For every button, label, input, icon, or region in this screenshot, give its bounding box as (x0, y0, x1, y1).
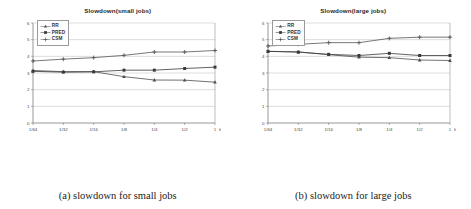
svg-text:6: 6 (27, 21, 30, 26)
svg-text:1/64: 1/64 (28, 127, 37, 132)
plot-area-large-jobs: 01234561/641/321/161/81/41/21freq(mes/s)… (250, 17, 456, 145)
legend-marker-plus-icon (40, 37, 51, 42)
caption-small-jobs: (a) slowdown for small jobs (0, 190, 236, 201)
legend-label-pred: PRED (287, 31, 301, 36)
svg-text:4: 4 (262, 54, 265, 59)
svg-text:6: 6 (262, 21, 265, 26)
svg-text:1: 1 (27, 104, 30, 109)
legend-label-pred: PRED (52, 31, 66, 36)
legend-marker-triangle-icon (275, 24, 286, 29)
chart-title-large-jobs: Slowdown(large jobs) (320, 7, 386, 14)
panel-small-jobs: Slowdown(small jobs) 01234561/641/321/16… (0, 0, 236, 209)
svg-text:1/16: 1/16 (325, 127, 334, 132)
svg-text:3: 3 (27, 71, 30, 76)
legend-marker-square-icon (40, 30, 51, 35)
legend-item-rr: RR (275, 23, 301, 29)
svg-text:1: 1 (214, 127, 217, 132)
legend-item-csm: CSM (275, 37, 301, 43)
svg-text:1/4: 1/4 (151, 127, 158, 132)
svg-text:2: 2 (27, 87, 30, 92)
svg-text:2: 2 (262, 87, 265, 92)
legend-large-jobs: RR PRED CSM (272, 20, 305, 46)
svg-text:1/2: 1/2 (417, 127, 424, 132)
svg-text:5: 5 (262, 37, 265, 42)
legend-label-csm: CSM (52, 37, 63, 42)
svg-text:5: 5 (27, 37, 30, 42)
svg-text:1/32: 1/32 (294, 127, 303, 132)
svg-text:0: 0 (262, 121, 265, 126)
legend-item-pred: PRED (275, 30, 301, 36)
svg-text:1/16: 1/16 (89, 127, 98, 132)
svg-text:3: 3 (262, 71, 265, 76)
svg-text:4: 4 (27, 54, 30, 59)
svg-text:1/2: 1/2 (181, 127, 188, 132)
legend-small-jobs: RR PRED CSM (37, 20, 70, 46)
legend-label-rr: RR (52, 24, 59, 29)
svg-text:1/8: 1/8 (356, 127, 363, 132)
chart-title-small-jobs: Slowdown(small jobs) (84, 7, 151, 14)
legend-marker-square-icon (275, 30, 286, 35)
legend-marker-triangle-icon (40, 24, 51, 29)
svg-text:1: 1 (262, 104, 265, 109)
legend-item-csm: CSM (40, 37, 66, 43)
legend-label-csm: CSM (287, 37, 298, 42)
svg-text:0: 0 (27, 121, 30, 126)
svg-text:1/32: 1/32 (59, 127, 68, 132)
legend-item-rr: RR (40, 23, 66, 29)
plot-area-small-jobs: 01234561/641/321/161/81/41/21freq(mes/s)… (15, 17, 221, 145)
svg-text:1/64: 1/64 (264, 127, 273, 132)
legend-marker-plus-icon (275, 37, 286, 42)
svg-text:freq(mes/s): freq(mes/s) (454, 127, 456, 132)
svg-text:1/4: 1/4 (387, 127, 394, 132)
svg-text:1/8: 1/8 (121, 127, 128, 132)
figure-two-panel: Slowdown(small jobs) 01234561/641/321/16… (0, 0, 471, 209)
legend-item-pred: PRED (40, 30, 66, 36)
svg-text:1: 1 (449, 127, 452, 132)
legend-label-rr: RR (287, 24, 294, 29)
caption-large-jobs: (b) slowdown for large jobs (236, 190, 471, 201)
panel-large-jobs: Slowdown(large jobs) 01234561/641/321/16… (236, 0, 471, 209)
svg-text:freq(mes/s): freq(mes/s) (219, 127, 221, 132)
